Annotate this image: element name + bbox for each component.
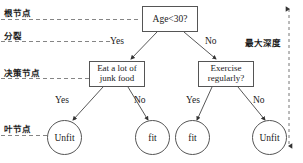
node-decision-right-line2: regularly? [208, 74, 244, 84]
edge-root-to-left [131, 32, 157, 59]
annotation-split: 分裂 [4, 29, 22, 41]
annotation-decision-node: 决策节点 [4, 66, 40, 78]
node-root[interactable]: Age<30? [142, 6, 198, 32]
node-leaf-unfit-2[interactable]: Unfit [252, 120, 287, 155]
node-leaf-fit-2[interactable]: fit [175, 120, 210, 155]
node-root-label: Age<30? [153, 14, 188, 24]
edge-label-left-no: No [134, 95, 146, 105]
edge-label-root-no: No [205, 36, 217, 46]
annotation-max-depth: 最大深度 [245, 36, 281, 48]
edge-label-left-yes: Yes [55, 95, 69, 105]
edge-label-right-yes: Yes [186, 95, 200, 105]
edge-label-right-no: No [253, 95, 265, 105]
decision-tree-diagram: Age<30? Eat a lot of junk food Exercise … [0, 0, 303, 163]
node-leaf-unfit-1-label: Unfit [54, 133, 74, 143]
annotation-leaf-node: 叶节点 [4, 122, 31, 134]
node-leaf-unfit-1[interactable]: Unfit [47, 120, 82, 155]
node-leaf-fit-1[interactable]: fit [135, 120, 170, 155]
node-leaf-unfit-2-label: Unfit [259, 133, 279, 143]
node-decision-right[interactable]: Exercise regularly? [198, 61, 254, 87]
node-leaf-fit-1-label: fit [148, 133, 156, 143]
node-leaf-fit-2-label: fit [188, 133, 196, 143]
annotation-root-node: 根节点 [4, 6, 31, 18]
node-decision-left[interactable]: Eat a lot of junk food [89, 61, 145, 87]
edge-left-to-leaf1 [73, 87, 103, 120]
node-decision-left-line2: junk food [100, 74, 135, 84]
edge-label-root-yes: Yes [110, 36, 124, 46]
